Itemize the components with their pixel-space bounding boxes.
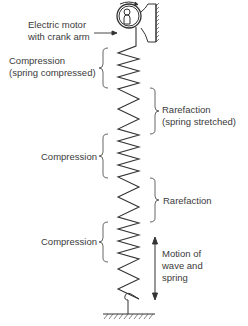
rarefaction-label-1-detail: (spring stretched) xyxy=(162,116,236,128)
motion-label-line3: spring xyxy=(162,272,188,284)
motion-label-line1: Motion of xyxy=(162,248,201,260)
compression-label-3: Compression xyxy=(41,236,97,248)
rarefaction-brace-2 xyxy=(150,178,159,222)
motion-double-arrow xyxy=(153,237,158,300)
compression-label-1-detail: (spring compressed) xyxy=(9,67,96,79)
compression-label-1: Compression xyxy=(9,55,65,67)
motor-pointer-arrow xyxy=(94,31,117,35)
compression-label-2: Compression xyxy=(41,151,97,163)
spring xyxy=(118,27,139,299)
ground-anchor-icon xyxy=(103,293,155,319)
rarefaction-label-1: Rarefaction xyxy=(162,104,211,116)
motor-label-line1: Electric motor xyxy=(28,19,86,31)
compression-brace-3 xyxy=(99,222,108,262)
motor-label-line2: with crank arm xyxy=(28,31,90,43)
motion-label-line2: wave and xyxy=(162,260,203,272)
compression-brace-1 xyxy=(99,48,108,88)
motor-icon xyxy=(117,2,141,28)
rarefaction-label-2: Rarefaction xyxy=(163,195,212,207)
wall-bracket-icon xyxy=(141,3,159,42)
compression-brace-2 xyxy=(99,134,108,178)
rarefaction-brace-1 xyxy=(150,88,159,134)
spring-wave-diagram xyxy=(0,0,248,326)
